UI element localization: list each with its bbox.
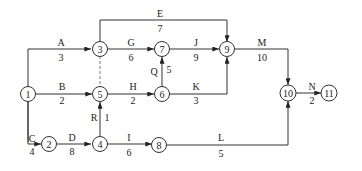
edge-label-k-duration: 3 [194,95,199,106]
edge-label-j-name: J [194,37,198,48]
edge-l [166,101,288,145]
edge-label-e-duration: 7 [158,23,163,34]
edge-label-n-duration: 2 [310,95,315,106]
edge-label-h-duration: 2 [131,95,136,106]
node-6: 6 [155,87,170,102]
node-1-label: 1 [26,89,31,100]
edge-label-g-name: G [127,37,134,48]
node-8: 8 [152,138,167,153]
edge-label-e-name: E [157,8,163,19]
edge-label-c-name: C [29,133,36,144]
edge-label-a-duration: 3 [59,52,64,63]
edge-label-d-duration: 8 [70,146,75,157]
edge-label-q-duration: 5 [167,64,172,75]
node-4-label: 4 [98,139,103,150]
edge-label-i-name: I [127,132,130,143]
edge-label-b-name: B [59,81,66,92]
node-2-label: 2 [47,139,52,150]
edge-label-c-duration: 4 [30,146,35,157]
edge-label-r-name: R [91,112,98,123]
node-8-label: 8 [157,140,162,151]
edge-label-h-name: H [129,81,136,92]
edge-label-a-name: A [57,37,65,48]
edge-label-k-name: K [192,81,200,92]
edge-label-b-duration: 2 [60,95,65,106]
network-diagram: A 3 B 2 C 4 D 8 E 7 G 6 H 2 I 6 J 9 K 3 … [0,0,362,171]
node-11-label: 11 [324,88,334,99]
edge-label-q-name: Q [150,66,158,77]
edge-e [100,20,227,42]
node-1: 1 [21,87,36,102]
node-11: 11 [321,85,337,101]
edge-label-m-duration: 10 [257,52,267,63]
edge-label-g-duration: 6 [129,52,134,63]
edge-label-m-name: M [258,37,267,48]
edge-label-j-duration: 9 [194,52,199,63]
node-10: 10 [280,85,296,101]
node-9-label: 9 [225,44,230,55]
edge-label-d-name: D [68,132,75,143]
edge-label-n-name: N [308,81,315,92]
node-5: 5 [93,87,108,102]
node-7: 7 [155,42,170,57]
node-3-label: 3 [98,44,103,55]
edge-label-r-duration: 1 [105,112,110,123]
node-9: 9 [220,42,235,57]
node-6-label: 6 [160,89,165,100]
edge-label-l-name: L [218,132,224,143]
node-2: 2 [42,137,57,152]
edge-label-l-duration: 5 [219,148,224,159]
node-7-label: 7 [160,44,165,55]
node-10-label: 10 [283,88,293,99]
node-4: 4 [93,137,108,152]
edge-label-i-duration: 6 [127,147,132,158]
node-5-label: 5 [98,89,103,100]
node-3: 3 [93,42,108,57]
